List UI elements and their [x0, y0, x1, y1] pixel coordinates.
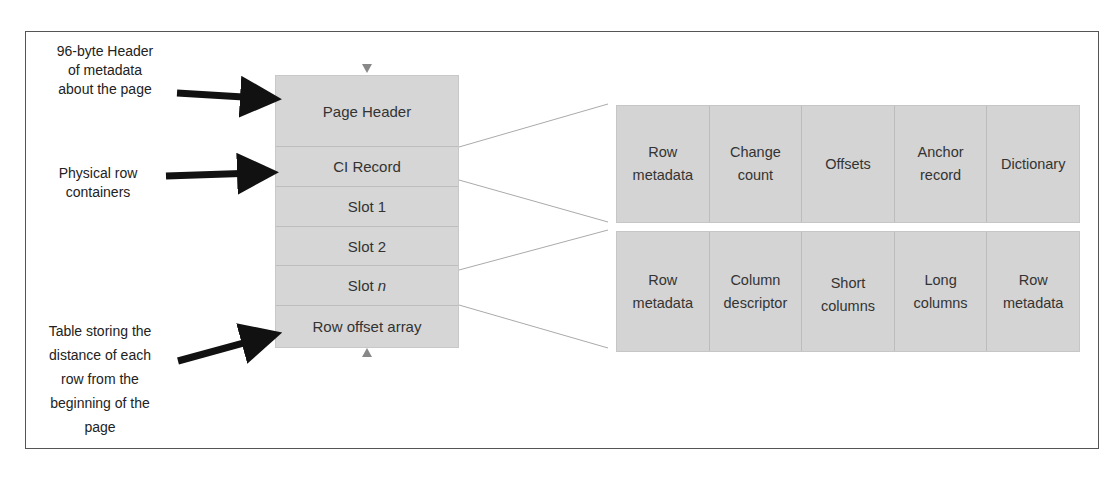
- slot-2-row: Slot 2: [276, 227, 458, 266]
- note-line: about the page: [40, 80, 170, 99]
- header-annotation: 96-byte Header of metadata about the pag…: [40, 42, 170, 99]
- ci-record-table: Rowmetadata Changecount Offsets Anchorre…: [616, 105, 1080, 223]
- table-cell: Columndescriptor: [710, 232, 803, 351]
- cell-line: Long: [914, 269, 968, 292]
- slot-table: Rowmetadata Columndescriptor Shortcolumn…: [616, 231, 1080, 352]
- note-line: Physical row: [38, 164, 158, 183]
- table-cell: Rowmetadata: [617, 106, 710, 222]
- ci-record-row: CI Record: [276, 147, 458, 187]
- slot-n-row: Slot n: [276, 266, 458, 306]
- note-line: containers: [38, 183, 158, 202]
- table-cell: Longcolumns: [895, 232, 988, 351]
- row-label: CI Record: [333, 158, 401, 175]
- table-cell: Changecount: [710, 106, 803, 222]
- bottom-marker-icon: [362, 348, 372, 357]
- cell-line: Column: [724, 269, 788, 292]
- note-line: 96-byte Header: [40, 42, 170, 61]
- slot-1-row: Slot 1: [276, 187, 458, 227]
- note-line: of metadata: [40, 61, 170, 80]
- top-marker-icon: [362, 64, 372, 73]
- note-line: row from the: [30, 367, 170, 391]
- offset-annotation: Table storing the distance of each row f…: [30, 319, 170, 439]
- cell-line: Short: [821, 272, 875, 295]
- table-cell: Rowmetadata: [987, 232, 1079, 351]
- row-label: Slot 1: [348, 198, 386, 215]
- table-cell: Rowmetadata: [617, 232, 710, 351]
- note-line: distance of each: [30, 343, 170, 367]
- rows-annotation: Physical row containers: [38, 164, 158, 202]
- cell-line: metadata: [633, 164, 693, 187]
- cell-line: columns: [821, 295, 875, 318]
- note-line: page: [30, 415, 170, 439]
- note-line: Table storing the: [30, 319, 170, 343]
- cell-line: Dictionary: [1001, 153, 1065, 176]
- row-label: Slot: [348, 277, 378, 294]
- table-cell: Offsets: [802, 106, 895, 222]
- row-label: Slot 2: [348, 238, 386, 255]
- cell-line: Anchor: [918, 141, 964, 164]
- cell-line: count: [730, 164, 781, 187]
- cell-line: Row: [633, 269, 693, 292]
- row-label-italic: n: [378, 277, 386, 294]
- cell-line: metadata: [1003, 292, 1063, 315]
- table-cell: Shortcolumns: [802, 232, 895, 351]
- table-cell: Dictionary: [987, 106, 1079, 222]
- note-line: beginning of the: [30, 391, 170, 415]
- row-label: Page Header: [323, 103, 411, 120]
- cell-line: Row: [633, 141, 693, 164]
- cell-line: descriptor: [724, 292, 788, 315]
- cell-line: Change: [730, 141, 781, 164]
- page-header-row: Page Header: [276, 76, 458, 147]
- cell-line: metadata: [633, 292, 693, 315]
- cell-line: record: [918, 164, 964, 187]
- row-label: Row offset array: [313, 318, 422, 335]
- cell-line: Offsets: [825, 153, 871, 176]
- row-offset-array-row: Row offset array: [276, 306, 458, 347]
- page-structure: Page Header CI Record Slot 1 Slot 2 Slot…: [275, 75, 459, 348]
- cell-line: columns: [914, 292, 968, 315]
- cell-line: Row: [1003, 269, 1063, 292]
- table-cell: Anchorrecord: [895, 106, 988, 222]
